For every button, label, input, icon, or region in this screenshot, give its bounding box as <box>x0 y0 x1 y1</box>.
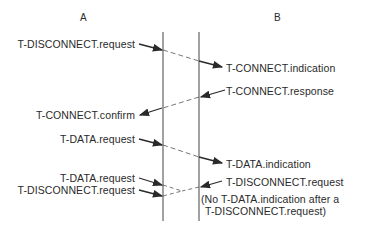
label-b-connect-response: T-CONNECT.response <box>226 85 334 97</box>
note-line-2: T-DISCONNECT.request) <box>205 205 326 217</box>
label-a-disconnect-request-1: T-DISCONNECT.request <box>17 38 135 50</box>
label-b-disconnect-request: T-DISCONNECT.request <box>226 176 344 188</box>
label-a-data-request-1: T-DATA.request <box>60 133 135 145</box>
note-line-1: (No T-DATA.indication after a <box>201 193 339 205</box>
label-a-disconnect-request-2: T-DISCONNECT.request <box>17 184 135 196</box>
label-b-connect-indication: T-CONNECT.indication <box>226 62 335 74</box>
label-b-data-indication: T-DATA.indication <box>226 158 311 170</box>
label-a-connect-confirm: T-CONNECT.confirm <box>36 109 135 121</box>
label-a-data-request-2: T-DATA.request <box>60 172 135 184</box>
